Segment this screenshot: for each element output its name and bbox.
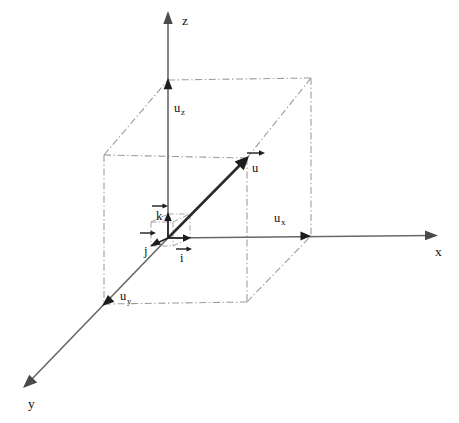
axis-label-x: x: [435, 244, 442, 259]
vector-u: [168, 150, 265, 238]
axis-label-y: y: [28, 396, 35, 411]
guide-depth-bottom-right: [247, 236, 311, 302]
component-label-ux-sub: x: [281, 217, 286, 227]
guide-depth-top-right: [247, 78, 311, 158]
unit-vector-j-label-overbar-head: [151, 230, 157, 235]
unit-vector-j-arrowhead: [150, 238, 161, 246]
guide-back-top-edge: [168, 78, 311, 80]
unit-vector-label-i: i: [180, 251, 184, 265]
component-label-uy-base: u: [120, 289, 127, 303]
component-label-ux: u x: [274, 211, 286, 227]
large-projection-box: [104, 78, 311, 304]
component-label-uz-sub: z: [181, 107, 185, 117]
vector-u-label-overbar-head: [259, 150, 265, 156]
component-label-ux-base: u: [274, 211, 281, 225]
axis-z: [163, 11, 172, 238]
component-label-uy-sub: y: [127, 296, 132, 306]
axis-x-line: [168, 236, 431, 239]
component-ux-arrowhead: [301, 232, 312, 241]
axis-y: [23, 238, 168, 388]
component-ux-arrowhead-group: [301, 232, 312, 241]
axis-z-arrowhead: [163, 11, 172, 24]
component-label-uz-base: u: [174, 101, 181, 115]
vector-diagram-figure: z x y u u z u x u y i j k: [0, 0, 459, 423]
axis-x-arrowhead: [425, 231, 438, 241]
unit-vector-i-arrowhead: [183, 234, 191, 242]
vector-u-line: [168, 163, 242, 238]
unit-vector-label-k: k: [156, 209, 163, 223]
axis-y-line: [31, 238, 168, 380]
guide-depth-top-left: [104, 80, 168, 155]
vector-label-u: u: [252, 161, 259, 175]
unit-vector-k-arrowhead: [164, 212, 172, 221]
guide-front-top-edge: [104, 155, 247, 158]
unit-vector-i-label-overbar-head: [187, 246, 193, 251]
component-label-uz: u z: [174, 101, 185, 117]
unit-vector-k-label-overbar-head: [163, 203, 169, 208]
unit-vector-label-j: j: [143, 244, 147, 258]
coordinate-system-svg: z x y u u z u x u y i j k: [0, 0, 459, 423]
unit-vector-i: [168, 234, 192, 251]
axis-label-z: z: [182, 13, 188, 28]
